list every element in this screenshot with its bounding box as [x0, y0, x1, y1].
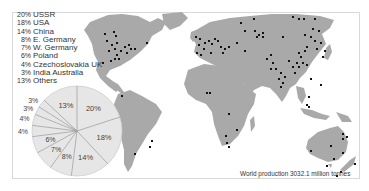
pie-slice-label: 3% — [23, 105, 33, 112]
legend-item: 13%Others — [14, 77, 102, 85]
pie-slice-label: 4% — [19, 115, 29, 122]
legend-item: 18%USA — [14, 19, 102, 27]
legend-item: 7%W. Germany — [14, 44, 102, 52]
pie-slice-label: 13% — [58, 101, 73, 110]
pie-slice-label: 3% — [28, 97, 38, 104]
pie-slice-label: 6% — [45, 136, 55, 143]
chart-caption: World production 3032.1 million tonnes — [240, 170, 350, 177]
legend: 20%USSR18%USA14%China8%E. Germany7%W. Ge… — [14, 11, 102, 86]
pie-slice-label: 4% — [18, 128, 28, 135]
legend-percent: 14% — [14, 28, 31, 36]
legend-item: 3%India Australia — [14, 69, 102, 77]
pie-slice-label: 20% — [86, 104, 101, 113]
legend-percent: 3% — [14, 69, 31, 77]
legend-percent: 4% — [14, 61, 31, 69]
pie-slice-label: 18% — [97, 133, 112, 142]
pie-slice-label: 8% — [62, 153, 72, 160]
legend-percent: 18% — [14, 19, 31, 27]
pie-slices — [32, 86, 122, 176]
legend-percent: 7% — [14, 44, 31, 52]
pie-slice-label: 14% — [78, 153, 93, 162]
pie-slice-label: 7% — [51, 146, 61, 153]
legend-item: 20%USSR — [14, 11, 102, 19]
legend-percent: 13% — [14, 77, 31, 85]
legend-percent: 20% — [14, 11, 31, 19]
legend-percent: 8% — [14, 36, 31, 44]
legend-label: Others — [33, 76, 57, 85]
legend-percent: 6% — [14, 52, 31, 60]
